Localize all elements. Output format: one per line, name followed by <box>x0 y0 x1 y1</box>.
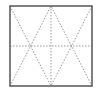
dotted-guide-lines <box>10 6 92 86</box>
grid-diagram <box>0 0 98 89</box>
